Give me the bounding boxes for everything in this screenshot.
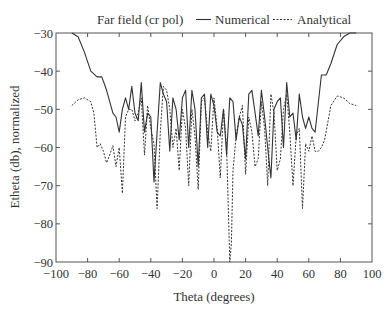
x-tick-label: 80 <box>334 267 347 281</box>
x-tick-label: 0 <box>211 267 217 281</box>
x-tick-label: −20 <box>173 267 193 281</box>
y-tick-label: −60 <box>33 141 53 155</box>
x-tick-label: −80 <box>78 267 98 281</box>
x-tick-label: 60 <box>303 267 316 281</box>
plot-frame <box>56 33 372 262</box>
x-axis-ticks: −100−80−60−40−20020406080100 <box>43 33 381 281</box>
far-field-chart: Far field (cr pol) Numerical Analytical … <box>0 0 391 312</box>
y-tick-label: −30 <box>33 27 53 41</box>
legend: Numerical Analytical <box>196 12 352 27</box>
x-tick-label: 20 <box>239 267 252 281</box>
x-tick-label: −60 <box>109 267 129 281</box>
x-tick-label: −40 <box>141 267 161 281</box>
legend-label-numerical: Numerical <box>215 12 270 27</box>
y-tick-label: −80 <box>33 217 53 231</box>
x-axis-label: Theta (degrees) <box>173 289 254 304</box>
series-analytical-line <box>72 86 356 262</box>
legend-label-analytical: Analytical <box>297 12 352 27</box>
plot-area <box>72 33 356 262</box>
chart-title: Far field (cr pol) <box>97 12 183 27</box>
x-tick-label: 100 <box>363 267 382 281</box>
y-tick-label: −50 <box>33 103 53 117</box>
y-tick-label: −90 <box>33 256 53 270</box>
x-tick-label: 40 <box>271 267 284 281</box>
y-tick-label: −40 <box>33 65 53 79</box>
y-tick-label: −70 <box>33 179 53 193</box>
y-axis-label: Etheta (db), normalized <box>7 85 22 209</box>
